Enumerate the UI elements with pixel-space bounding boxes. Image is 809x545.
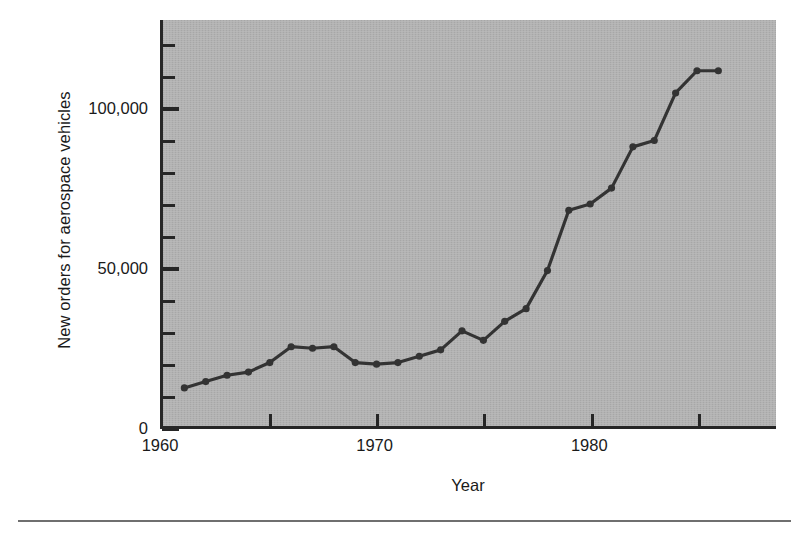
y-axis-major-tick bbox=[162, 427, 179, 431]
data-point bbox=[352, 359, 359, 366]
x-axis-tick-label: 1960 bbox=[115, 436, 205, 455]
y-axis-tick-label: 50,000 bbox=[28, 259, 148, 278]
data-point bbox=[330, 343, 337, 350]
y-axis-title: New orders for aerospace vehicles bbox=[44, 0, 84, 440]
data-point bbox=[458, 327, 465, 334]
data-point bbox=[693, 67, 700, 74]
data-series-aerospace-orders bbox=[163, 20, 776, 426]
data-line bbox=[184, 71, 718, 388]
footer-rule bbox=[18, 520, 791, 522]
x-axis-title: Year bbox=[160, 476, 776, 495]
data-point bbox=[715, 67, 722, 74]
data-point bbox=[202, 378, 209, 385]
data-point bbox=[480, 337, 487, 344]
data-point bbox=[523, 305, 530, 312]
data-point bbox=[651, 137, 658, 144]
data-point bbox=[629, 143, 636, 150]
data-point bbox=[608, 185, 615, 192]
x-axis-tick-label: 1980 bbox=[544, 436, 634, 455]
data-point bbox=[245, 369, 252, 376]
data-point bbox=[394, 359, 401, 366]
chart-figure: New orders for aerospace vehicles 050,00… bbox=[0, 0, 809, 545]
data-point bbox=[565, 207, 572, 214]
data-point bbox=[266, 359, 273, 366]
data-point bbox=[181, 384, 188, 391]
data-point bbox=[373, 361, 380, 368]
data-point bbox=[309, 345, 316, 352]
data-point bbox=[416, 353, 423, 360]
x-axis-tick-label: 1970 bbox=[330, 436, 420, 455]
data-point bbox=[288, 343, 295, 350]
data-point bbox=[223, 372, 230, 379]
data-point bbox=[437, 346, 444, 353]
data-point bbox=[501, 318, 508, 325]
plot-area bbox=[160, 20, 776, 429]
data-point bbox=[672, 89, 679, 96]
data-point bbox=[544, 267, 551, 274]
y-axis-tick-label: 100,000 bbox=[28, 99, 148, 118]
data-point bbox=[587, 200, 594, 207]
